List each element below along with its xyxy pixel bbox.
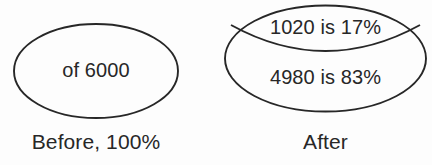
before-ellipse-label: of 6000 [0,59,192,82]
after-top-segment-label: 1020 is 17% [225,16,426,39]
after-caption: After [225,130,426,154]
diagram-canvas: of 6000 Before, 100% 1020 is 17% 4980 is… [0,0,432,165]
after-bottom-segment-label: 4980 is 83% [225,66,426,89]
before-caption: Before, 100% [0,130,192,154]
